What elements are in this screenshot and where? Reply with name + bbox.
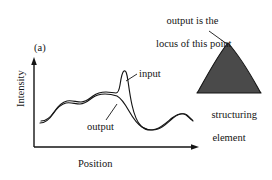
output-leader-line bbox=[106, 104, 117, 120]
structuring-element-label-line2: element bbox=[189, 132, 269, 143]
output-curve bbox=[40, 94, 193, 130]
y-axis bbox=[31, 57, 37, 147]
input-curve-label: input bbox=[139, 68, 161, 79]
figure-panel: output is the locus of this point (a) In… bbox=[0, 0, 272, 180]
x-axis bbox=[34, 144, 199, 150]
locus-caption-line2: locus of this point bbox=[156, 38, 232, 49]
locus-caption: output is the locus of this point bbox=[156, 4, 232, 72]
locus-caption-line1: output is the bbox=[167, 15, 219, 26]
panel-label: (a) bbox=[34, 42, 46, 53]
output-curve-label: output bbox=[87, 121, 114, 132]
structuring-element-label: structuring element bbox=[189, 98, 269, 166]
structuring-element-label-line1: structuring bbox=[212, 109, 258, 120]
y-axis-label: Intensity bbox=[15, 59, 26, 119]
x-axis-label: Position bbox=[78, 158, 112, 169]
